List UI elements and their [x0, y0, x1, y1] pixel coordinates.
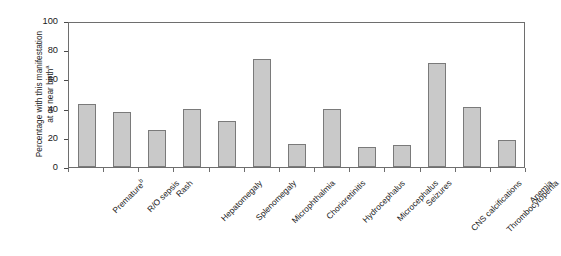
x-axis-label: R/O sepsis [145, 178, 181, 214]
x-axis-tick-mark [244, 168, 245, 172]
bar-slot [384, 23, 419, 167]
x-axis-tick-mark [138, 168, 139, 172]
x-axis-tick-mark [525, 168, 526, 172]
y-axis-tick-label: 80 [48, 45, 58, 55]
bar[interactable] [463, 107, 481, 167]
bar[interactable] [253, 59, 271, 167]
bar[interactable] [218, 121, 236, 167]
y-axis-tick-label: 0 [53, 162, 58, 172]
x-axis-tick-mark [314, 168, 315, 172]
bar[interactable] [288, 144, 306, 167]
bar-slot [489, 23, 524, 167]
y-axis-title: Percentage with this manifestation at or… [0, 0, 40, 185]
bar[interactable] [78, 104, 96, 167]
x-axis-tick-mark [490, 168, 491, 172]
bar-slot [104, 23, 139, 167]
bar[interactable] [323, 109, 341, 167]
bar-slot [139, 23, 174, 167]
y-axis-tick-label: 60 [48, 74, 58, 84]
x-axis-tick-mark [68, 168, 69, 172]
bar[interactable] [183, 109, 201, 167]
x-axis-tick-mark [455, 168, 456, 172]
y-axis-tick-label: 100 [42, 16, 58, 26]
x-axis-label-text: Premature [110, 180, 145, 215]
x-axis-tick-mark [279, 168, 280, 172]
y-axis-tick-label: 40 [48, 104, 58, 114]
x-axis-tick-mark [420, 168, 421, 172]
y-axis-title-line1: Percentage with this manifestation [34, 31, 44, 157]
bar[interactable] [393, 145, 411, 167]
bar[interactable] [113, 112, 131, 167]
bar[interactable] [358, 147, 376, 167]
bar-slot [419, 23, 454, 167]
x-axis-tick-mark [349, 168, 350, 172]
bar-slot [209, 23, 244, 167]
y-axis-title-superscript: a [44, 65, 50, 68]
bar-slot [279, 23, 314, 167]
y-axis-tick-label: 20 [48, 133, 58, 143]
x-axis-tick-mark [173, 168, 174, 172]
x-axis-label-text: R/O sepsis [145, 178, 181, 214]
x-axis-tick-mark [384, 168, 385, 172]
x-axis-tick-mark [209, 168, 210, 172]
bar[interactable] [148, 130, 166, 167]
bar-slot [349, 23, 384, 167]
y-axis-title-text: Percentage with this manifestation at or… [34, 8, 55, 180]
bar-slot [454, 23, 489, 167]
x-axis-tick-mark [103, 168, 104, 172]
bar-slot [244, 23, 279, 167]
bar-slot [174, 23, 209, 167]
x-axis-label: Prematureb [110, 178, 147, 215]
bar[interactable] [498, 140, 516, 167]
bar-series [69, 23, 524, 167]
bar[interactable] [428, 63, 446, 167]
bar-slot [314, 23, 349, 167]
y-axis-title-line2: at or near birtha [45, 8, 56, 180]
plot-area [68, 22, 525, 168]
bar-slot [69, 23, 104, 167]
